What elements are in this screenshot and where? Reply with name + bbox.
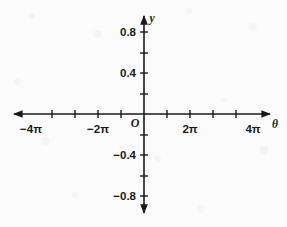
x-tick-label-2pi: 2π xyxy=(182,123,197,135)
y-tick-label--0.4: −0.4 xyxy=(113,149,136,161)
x-axis-group: −4π −2π 2π 4π θ xyxy=(14,110,278,135)
x-axis-label-theta: θ xyxy=(272,118,278,130)
y-axis-group: 0.8 0.4 −0.4 −0.8 y xyxy=(113,12,155,213)
x-tick-label--4pi: −4π xyxy=(20,123,42,135)
y-tick-label-0.8: 0.8 xyxy=(120,26,137,38)
y-tick-label-0.4: 0.4 xyxy=(120,67,137,79)
coordinate-plane-figure: −4π −2π 2π 4π θ 0.8 0.4 xyxy=(0,0,287,227)
origin-label: O xyxy=(131,116,140,130)
y-axis-label-y: y xyxy=(147,12,155,25)
axes-plot: −4π −2π 2π 4π θ 0.8 0.4 xyxy=(0,0,287,227)
x-tick-label--2pi: −2π xyxy=(87,123,109,135)
x-tick-labels: −4π −2π 2π 4π xyxy=(20,123,261,135)
x-tick-label-4pi: 4π xyxy=(245,123,260,135)
y-tick-label--0.8: −0.8 xyxy=(113,190,136,202)
